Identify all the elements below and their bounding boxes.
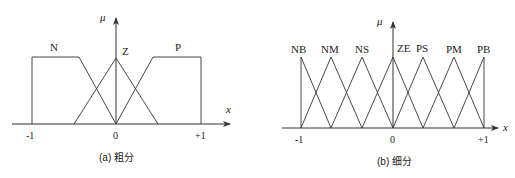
- diagram-b: μ x NB NM NS ZE PS PM PB -1 0 +1 (b) 细分: [282, 15, 508, 167]
- membership-ps: [393, 57, 454, 128]
- set-label-n: N: [50, 41, 58, 53]
- tick-minus-one: -1: [26, 130, 34, 141]
- set-label-pb: PB: [477, 43, 490, 55]
- tick-plus-one: +1: [478, 134, 489, 145]
- tick-zero: 0: [113, 130, 118, 141]
- membership-p: [116, 57, 201, 124]
- caption-a: (a) 粗分: [99, 152, 134, 163]
- x-axis-label: x: [502, 121, 508, 133]
- set-label-nb: NB: [291, 43, 306, 55]
- tick-zero: 0: [390, 134, 395, 145]
- set-label-z: Z: [122, 45, 129, 57]
- membership-nm: [301, 57, 362, 128]
- set-label-ns: NS: [355, 43, 369, 55]
- diagram-a: μ x N Z P -1 0 +1 (a) 粗分: [12, 11, 231, 163]
- set-label-nm: NM: [321, 43, 339, 55]
- y-axis-label: μ: [99, 11, 106, 23]
- fuzzy-membership-figure: μ x N Z P -1 0 +1 (a) 粗分 μ x NB NM NS ZE…: [0, 0, 515, 178]
- tick-minus-one: -1: [295, 134, 303, 145]
- membership-pm: [423, 57, 484, 128]
- set-label-ps: PS: [416, 42, 428, 54]
- x-axis-label: x: [225, 103, 231, 115]
- set-label-ze: ZE: [397, 42, 411, 54]
- set-label-p: P: [175, 41, 181, 53]
- set-label-pm: PM: [446, 43, 462, 55]
- membership-ns: [331, 57, 393, 128]
- y-axis-label: μ: [376, 15, 383, 27]
- tick-plus-one: +1: [195, 130, 206, 141]
- membership-n: [32, 57, 116, 124]
- caption-b: (b) 细分: [377, 155, 412, 167]
